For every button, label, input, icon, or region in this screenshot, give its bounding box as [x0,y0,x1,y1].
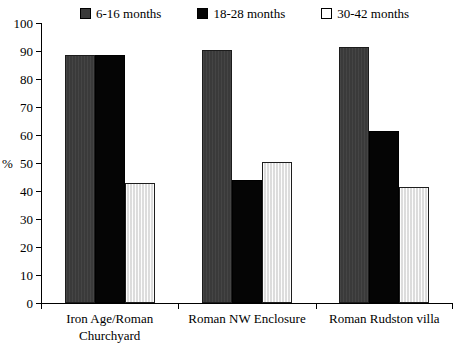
bar-18-28-months-group-2 [369,131,399,303]
x-axis-line [41,303,453,304]
legend-item-18-28-months: 18-28 months [197,7,285,20]
bar-30-42-months-group-1 [262,162,292,303]
legend-swatch-icon-series-2 [321,8,332,19]
bar-6-16-months-group-0 [65,55,95,303]
legend-label-series-2: 30-42 months [337,7,409,20]
y-axis-tick-label: 100 [3,17,33,30]
category-label-line: Iron Age/Roman [41,310,178,327]
y-axis-tick [36,247,41,248]
chart-legend: 6-16 months 18-28 months 30-42 months [80,4,420,22]
y-axis-tick-label: 40 [3,185,33,198]
x-axis-tick [41,303,42,309]
y-axis-title: % [2,157,13,170]
legend-label-series-0: 6-16 months [96,7,161,20]
bar-18-28-months-group-0 [95,55,125,303]
y-axis-line [41,23,42,304]
y-axis-tick [36,51,41,52]
y-axis-tick-label: 0 [3,297,33,310]
category-label-line: Roman Rudston villa [316,310,453,327]
y-axis-tick [36,135,41,136]
plot-area [41,23,453,303]
bar-30-42-months-group-2 [399,187,429,303]
y-axis-tick [36,275,41,276]
y-axis-tick-label: 20 [3,241,33,254]
bar-chart: 6-16 months 18-28 months 30-42 months 01… [0,0,459,357]
y-axis-tick-label: 70 [3,101,33,114]
legend-swatch-icon-series-1 [197,8,208,19]
legend-item-6-16-months: 6-16 months [80,7,161,20]
y-axis-tick [36,163,41,164]
y-axis-tick [36,79,41,80]
y-axis-tick-label: 90 [3,45,33,58]
legend-item-30-42-months: 30-42 months [321,7,409,20]
y-axis-tick-label: 60 [3,129,33,142]
x-axis-category-label: Iron Age/RomanChurchyard [41,310,178,344]
category-label-line: Churchyard [41,327,178,344]
y-axis-tick [36,219,41,220]
y-axis-tick [36,191,41,192]
x-axis-tick [452,303,453,309]
x-axis-category-labels: Iron Age/RomanChurchyardRoman NW Enclosu… [41,310,453,356]
x-axis-tick [316,303,317,309]
bar-6-16-months-group-2 [339,47,369,303]
x-axis-category-label: Roman NW Enclosure [178,310,315,327]
bar-30-42-months-group-0 [125,183,155,303]
legend-label-series-1: 18-28 months [213,7,285,20]
y-axis-tick-label: 10 [3,269,33,282]
bar-18-28-months-group-1 [232,180,262,303]
x-axis-tick [178,303,179,309]
y-axis-tick-label: 80 [3,73,33,86]
y-axis-tick [36,107,41,108]
y-axis-tick [36,23,41,24]
category-label-line: Roman NW Enclosure [178,310,315,327]
legend-swatch-icon-series-0 [80,8,91,19]
bar-6-16-months-group-1 [202,50,232,303]
x-axis-category-label: Roman Rudston villa [316,310,453,327]
y-axis-tick-label: 30 [3,213,33,226]
